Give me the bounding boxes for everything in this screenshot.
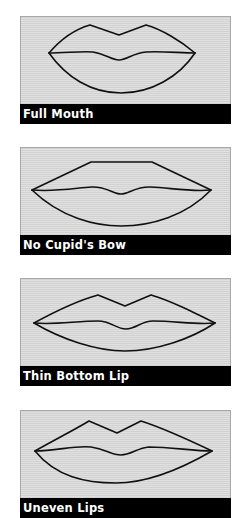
lip-panel-uneven-lips: Uneven Lips — [20, 410, 231, 518]
panel-label: Uneven Lips — [20, 498, 231, 518]
thin-bottom-lip-illustration — [21, 279, 230, 367]
lip-panel-full-mouth: Full Mouth — [20, 16, 231, 124]
lip-panel-thin-bottom-lip: Thin Bottom Lip — [20, 278, 231, 386]
panel-label: No Cupid's Bow — [20, 235, 231, 255]
lip-panel-no-cupids-bow: No Cupid's Bow — [20, 147, 231, 255]
uneven-lips-illustration — [21, 411, 230, 499]
panel-label: Thin Bottom Lip — [20, 366, 231, 386]
panel-label: Full Mouth — [20, 104, 231, 124]
full-mouth-illustration — [21, 17, 230, 105]
no-cupids-bow-illustration — [21, 148, 230, 236]
